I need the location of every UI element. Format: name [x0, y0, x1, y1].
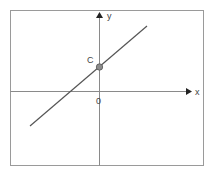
y-axis-label: y — [107, 11, 112, 21]
x-axis-label: x — [195, 87, 200, 97]
graph-diagram: x y 0 C — [0, 0, 215, 174]
frame — [11, 11, 204, 166]
point-c-label: C — [87, 55, 94, 65]
point-c — [96, 64, 102, 70]
origin-label: 0 — [96, 96, 101, 106]
